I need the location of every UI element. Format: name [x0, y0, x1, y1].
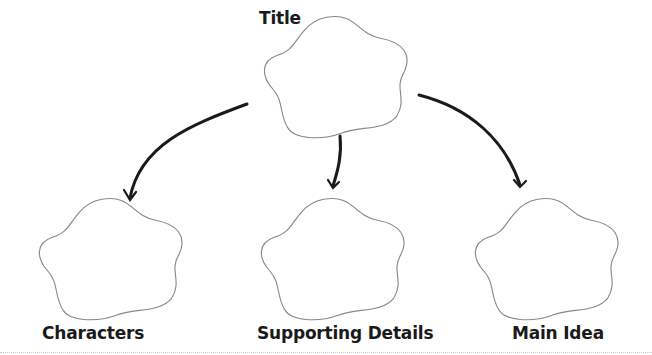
- characters-label: Characters: [42, 323, 144, 343]
- main-idea-flower-shape: [475, 198, 618, 319]
- arrow-to-main-idea: [419, 95, 526, 187]
- characters-flower-shape: [39, 198, 182, 319]
- arrow-to-characters: [124, 104, 247, 200]
- title-flower-shape: [264, 16, 407, 137]
- supporting-details-flower-shape: [261, 198, 404, 319]
- title-label: Title: [259, 8, 301, 28]
- bottom-dotted-divider: [0, 352, 652, 353]
- diagram-canvas: [0, 0, 652, 355]
- main-idea-label: Main Idea: [512, 323, 604, 343]
- supporting-details-label: Supporting Details: [257, 323, 433, 343]
- arrow-to-supporting-details: [328, 136, 341, 188]
